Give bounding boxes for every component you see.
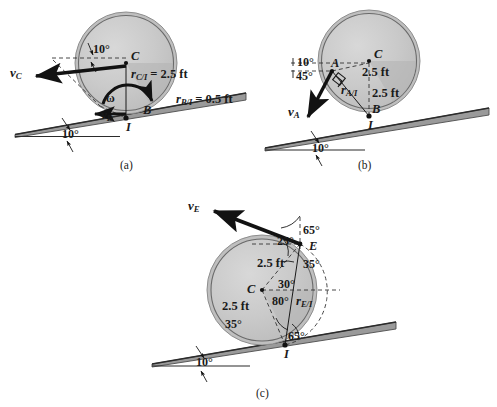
- point-label-e-c: E: [309, 240, 317, 253]
- angle-label-30-c: 30°: [278, 278, 295, 290]
- caption-c: (c): [256, 388, 269, 400]
- point-label-i-c: I: [284, 348, 289, 361]
- velocity-label-ve: vE: [188, 199, 200, 214]
- caption-a: (a): [120, 160, 133, 172]
- dimension-label-25-b-right: 2.5 ft: [372, 87, 399, 100]
- dimension-label-rbi: rB/I = 0.5 ft: [176, 93, 233, 107]
- kinematics-figure: [0, 0, 497, 407]
- point-label-c-c: C: [247, 283, 255, 296]
- dimension-label-25-b-top: 2.5 ft: [362, 66, 389, 79]
- point-label-c-b: C: [374, 48, 382, 61]
- angle-label-65-c-top: 65°: [303, 224, 320, 236]
- point-label-a-b: A: [331, 57, 339, 70]
- dimension-label-rei: rE/I: [296, 295, 312, 309]
- point-c-a: [124, 61, 128, 65]
- angle-label-10-b: 10°: [297, 56, 314, 68]
- caption-b: (b): [358, 160, 371, 172]
- velocity-label-vc: vC: [10, 66, 22, 81]
- angle-label-65-c-bottom: 65°: [288, 330, 305, 342]
- dimension-label-rci: rC/I = 2.5 ft: [131, 68, 188, 82]
- angle-label-45-b: 45°: [296, 70, 313, 82]
- point-c-b: [367, 59, 371, 63]
- angle-label-10-a-top: 10°: [93, 43, 110, 55]
- angle-label-10-c-incline: 10°: [196, 356, 213, 368]
- angle-label-25-c: 25°: [277, 235, 294, 247]
- omega-label-a: ω: [106, 92, 115, 104]
- angle-label-80-c: 80°: [272, 295, 289, 307]
- point-e-c: [298, 242, 303, 247]
- velocity-label-vb: vB: [101, 108, 113, 123]
- velocity-label-va: vA: [288, 105, 300, 120]
- dimension-label-25-c-lower: 2.5 ft: [222, 300, 249, 313]
- dimension-label-rai: rA/I: [341, 84, 357, 98]
- dimension-label-25-c-upper: 2.5 ft: [257, 257, 284, 270]
- point-c-c: [260, 288, 264, 292]
- angle-label-10-a-incline: 10°: [62, 128, 79, 140]
- angle-label-10-b-incline: 10°: [312, 142, 329, 154]
- point-label-i-a: I: [126, 121, 131, 134]
- point-label-b-a: B: [143, 104, 151, 117]
- angle-label-35-c-left: 35°: [225, 318, 242, 330]
- point-label-c-a: C: [131, 50, 139, 63]
- point-label-i-b: I: [368, 119, 373, 132]
- angle-label-35-c-right: 35°: [303, 258, 320, 270]
- point-label-b-b: B: [372, 103, 380, 116]
